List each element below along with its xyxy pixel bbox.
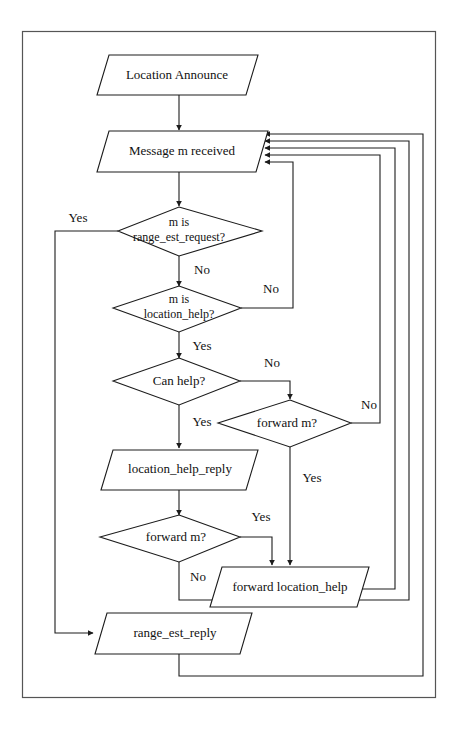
- edge-label-range-est-request-yes: Yes: [69, 210, 88, 225]
- node-location-help-reply: location_help_reply: [101, 450, 258, 490]
- node-forward-location-help-label: forward location_help: [232, 579, 347, 594]
- node-is-range-est-request-label-line2: range_est_request?: [133, 230, 225, 244]
- node-message-received: Message m received: [97, 131, 268, 172]
- node-forward-m-lower-label: forward m?: [146, 529, 207, 544]
- node-can-help: Can help?: [113, 358, 240, 405]
- edge-label-forward-m-lower-yes: Yes: [252, 509, 271, 524]
- flowchart-canvas: Location Announce Message m received m i…: [0, 0, 461, 734]
- edge-forward-m-upper-no-feedback: [265, 155, 380, 423]
- node-is-range-est-request: m is range_est_request?: [118, 207, 262, 256]
- node-is-location-help-label-line2: location_help?: [144, 307, 215, 321]
- edge-label-location-help-no: No: [263, 281, 279, 296]
- flowchart-figure: Location Announce Message m received m i…: [0, 0, 461, 734]
- node-location-announce-label: Location Announce: [126, 67, 228, 82]
- node-forward-m-lower: forward m?: [100, 515, 240, 562]
- edge-label-range-est-request-no: No: [194, 262, 210, 277]
- node-can-help-label: Can help?: [153, 373, 206, 388]
- edge-forward-m-lower-yes: [240, 537, 272, 565]
- edge-label-location-help-yes: Yes: [193, 338, 212, 353]
- edge-label-forward-m-upper-yes: Yes: [303, 470, 322, 485]
- node-is-range-est-request-label-line1: m is: [169, 215, 190, 229]
- node-is-location-help: m is location_help?: [113, 286, 241, 332]
- node-is-location-help-label-line1: m is: [169, 292, 190, 306]
- edge-label-can-help-no: No: [264, 355, 280, 370]
- edge-range-est-request-yes: [55, 231, 118, 633]
- edge-forward-location-help-feedback: [265, 148, 395, 589]
- edge-label-can-help-yes: Yes: [193, 414, 212, 429]
- node-forward-m-upper: forward m?: [218, 400, 351, 447]
- edge-can-help-no: [240, 381, 290, 399]
- node-range-est-reply: range_est_reply: [95, 613, 252, 654]
- node-forward-location-help: forward location_help: [210, 567, 369, 607]
- node-forward-m-upper-label: forward m?: [257, 415, 318, 430]
- node-message-received-label: Message m received: [129, 143, 236, 158]
- edge-label-forward-m-lower-no: No: [190, 569, 206, 584]
- node-range-est-reply-label: range_est_reply: [133, 625, 217, 640]
- edge-label-forward-m-upper-no: No: [361, 397, 377, 412]
- node-location-help-reply-label: location_help_reply: [128, 461, 232, 476]
- node-location-announce: Location Announce: [97, 55, 258, 95]
